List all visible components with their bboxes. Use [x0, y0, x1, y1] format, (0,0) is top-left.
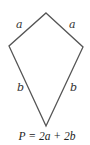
side-label-lower-left: b [17, 81, 24, 94]
side-label-upper-right: a [69, 18, 76, 31]
side-label-upper-left: a [16, 18, 23, 31]
perimeter-formula: P = 2a + 2b [18, 130, 76, 142]
side-label-lower-right: b [70, 81, 77, 94]
kite-diagram: a a b b P = 2a + 2b [0, 0, 90, 145]
